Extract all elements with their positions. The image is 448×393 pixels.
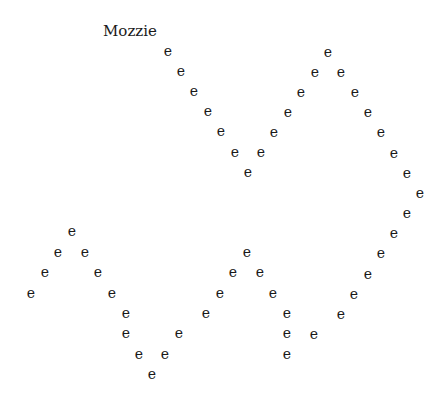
letter-e: e xyxy=(161,44,175,58)
letter-e: e xyxy=(145,367,159,381)
letter-e: e xyxy=(199,306,213,320)
letter-e: e xyxy=(254,145,268,159)
letter-e: e xyxy=(387,146,401,160)
letter-e: e xyxy=(361,267,375,281)
letter-e: e xyxy=(38,265,52,279)
letter-e: e xyxy=(201,104,215,118)
letter-e: e xyxy=(361,105,375,119)
letter-e: e xyxy=(334,65,348,79)
letter-e: e xyxy=(321,45,335,59)
letter-e: e xyxy=(347,287,361,301)
letter-e: e xyxy=(280,326,294,340)
letter-e: e xyxy=(91,265,105,279)
letter-e: e xyxy=(266,286,280,300)
letter-e: e xyxy=(334,307,348,321)
letter-e: e xyxy=(374,125,388,139)
letter-e: e xyxy=(253,265,267,279)
letter-e: e xyxy=(158,347,172,361)
letter-e: e xyxy=(348,85,362,99)
letter-e: e xyxy=(267,125,281,139)
letter-e: e xyxy=(51,245,65,259)
letter-e: e xyxy=(24,286,38,300)
letter-e: e xyxy=(400,206,414,220)
letter-e: e xyxy=(105,286,119,300)
letter-e: e xyxy=(400,166,414,180)
letter-e: e xyxy=(280,306,294,320)
letter-e: e xyxy=(132,347,146,361)
letter-e: e xyxy=(374,246,388,260)
letter-e: e xyxy=(226,265,240,279)
letter-e: e xyxy=(308,65,322,79)
letter-e: e xyxy=(241,165,255,179)
letter-e: e xyxy=(119,326,133,340)
letter-e: e xyxy=(174,64,188,78)
letter-e: e xyxy=(65,224,79,238)
letter-e: e xyxy=(172,326,186,340)
letter-e: e xyxy=(413,186,427,200)
letter-e: e xyxy=(214,124,228,138)
letter-e: e xyxy=(240,245,254,259)
title-text: Mozzie xyxy=(103,22,157,40)
letter-e: e xyxy=(78,245,92,259)
letter-e: e xyxy=(281,105,295,119)
letter-e: e xyxy=(307,327,321,341)
letter-e: e xyxy=(228,145,242,159)
letter-e: e xyxy=(280,347,294,361)
letter-e: e xyxy=(213,286,227,300)
letter-e: e xyxy=(387,226,401,240)
letter-e: e xyxy=(187,84,201,98)
letter-e: e xyxy=(294,85,308,99)
letter-e: e xyxy=(119,306,133,320)
